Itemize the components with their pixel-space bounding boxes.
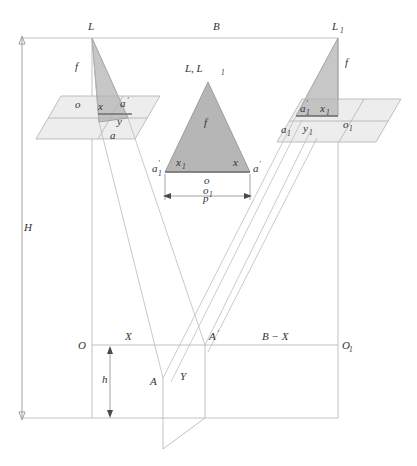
label-center-x1: x — [175, 156, 181, 168]
stereoscopic-parallax-diagram: L B L 1 f f o x a ' y a L, L 1 f x 1 x a… — [0, 0, 417, 466]
object-diagonal — [163, 418, 205, 449]
label-left-o: o — [75, 98, 81, 110]
right-image-plane — [277, 99, 401, 142]
label-left-a: a — [110, 129, 116, 141]
label-right-x1: x — [319, 102, 325, 114]
label-left-a-prime: a — [120, 97, 126, 109]
label-right-y1: y — [302, 122, 308, 134]
label-h: h — [102, 373, 108, 385]
object-point-structure — [163, 345, 205, 449]
ground-reference-line — [92, 345, 338, 418]
label-center-apex-sub: 1 — [221, 68, 225, 77]
label-right-a1-prime-sub: 1 — [306, 108, 310, 117]
label-Y: Y — [180, 370, 188, 382]
label-center-o1-sub: 1 — [209, 190, 213, 199]
label-B: B — [213, 20, 220, 32]
label-A: A — [149, 375, 157, 387]
label-center-x: x — [232, 156, 238, 168]
label-f-right: f — [345, 56, 350, 68]
label-right-o1-sub: 1 — [349, 124, 353, 133]
dimension-h-arrow-top — [107, 346, 113, 354]
label-H: H — [23, 221, 33, 233]
label-O: O — [78, 339, 86, 351]
right-plane-face — [277, 99, 401, 142]
label-p-dim: p — [202, 192, 209, 204]
label-L1: L — [331, 20, 338, 32]
label-O1-sub: 1 — [349, 345, 353, 354]
dimension-h-arrow-bottom — [107, 410, 113, 418]
dimension-h — [107, 346, 113, 418]
label-left-x: x — [97, 100, 103, 112]
dimension-p-arrow-left — [163, 193, 171, 199]
label-L: L — [87, 20, 94, 32]
label-A-prime: A — [208, 330, 216, 342]
label-center-x1-sub: 1 — [182, 162, 186, 171]
label-center-a-prime-mark: ' — [259, 160, 261, 169]
label-B-minus-X: B − X — [262, 330, 290, 342]
label-right-y1-sub: 1 — [309, 128, 313, 137]
label-X: X — [124, 330, 133, 342]
label-center-apex: L, L — [184, 62, 203, 74]
label-right-x1-sub: 1 — [326, 108, 330, 117]
label-left-y: y — [116, 115, 122, 127]
label-right-a1-sub: 1 — [287, 129, 291, 138]
label-center-a1-prime-sub: 1 — [158, 169, 162, 178]
label-f-left: f — [75, 60, 80, 72]
label-center-a1-prime-mark: ' — [158, 159, 160, 168]
diagram-root: L B L 1 f f o x a ' y a L, L 1 f x 1 x a… — [0, 0, 417, 466]
dimension-p-arrow-right — [244, 193, 252, 199]
label-L1-subscript: 1 — [340, 26, 344, 35]
